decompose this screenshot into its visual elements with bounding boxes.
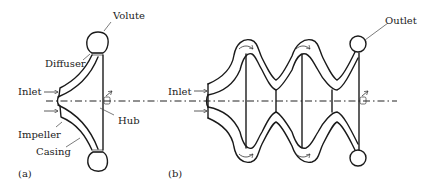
label-outlet: Outlet (385, 15, 417, 26)
label-inlet-b: Inlet (168, 86, 192, 97)
panel-a-centrifugal-stage: Volute Diffuser Inlet Impeller Casing Hu… (18, 10, 158, 179)
label-inlet-a: Inlet (18, 86, 42, 97)
label-diffuser: Diffuser (45, 58, 86, 69)
label-casing: Casing (36, 146, 71, 157)
panel-b-tag: (b) (168, 168, 182, 179)
outlet-volute-top (350, 36, 366, 52)
casing-lower-b (208, 118, 355, 162)
compressor-diagram-figure: Volute Diffuser Inlet Impeller Casing Hu… (0, 0, 429, 189)
panel-a-tag: (a) (18, 168, 32, 179)
outlet-volute-bottom (350, 150, 366, 166)
volute-bottom-shape (88, 152, 108, 171)
volute-top-shape (87, 32, 108, 53)
label-impeller: Impeller (18, 129, 61, 140)
panel-b-multistage-compressor: Inlet Outlet (b) (160, 15, 417, 179)
casing-upper-b (208, 40, 355, 84)
label-volute: Volute (112, 10, 145, 21)
label-hub: Hub (118, 115, 140, 126)
